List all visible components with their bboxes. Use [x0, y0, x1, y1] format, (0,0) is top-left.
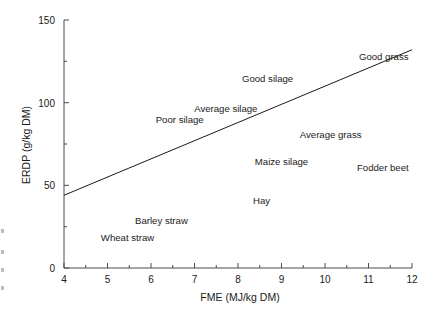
page-margin-artifact: [1, 268, 4, 272]
data-point-label: Barley straw: [135, 215, 188, 226]
x-axis-tick-label: 12: [406, 274, 417, 285]
data-point-label: Hay: [253, 195, 270, 206]
x-axis-tick-label: 4: [61, 274, 67, 285]
page-margin-artifact: [1, 229, 4, 233]
x-axis-title: FME (MJ/kg DM): [200, 291, 279, 303]
chart-series: [64, 50, 412, 195]
x-axis-tick-label: 7: [192, 274, 198, 285]
x-axis-tick-label: 6: [148, 274, 154, 285]
x-axis-ticks: [64, 263, 412, 268]
x-axis-tick-label: 10: [319, 274, 330, 285]
data-point-label: Wheat straw: [101, 231, 154, 242]
data-point-label: Good grass: [359, 51, 409, 62]
chart-figure: 456789101112 050100150 Good grassGood si…: [0, 0, 430, 313]
page-margin-artifact: [1, 286, 4, 290]
data-point-label: Maize silage: [255, 155, 308, 166]
x-axis-tick-label: 9: [279, 274, 285, 285]
data-point-label: Poor silage: [156, 114, 204, 125]
x-axis-tick-label: 8: [235, 274, 241, 285]
y-axis-title: ERDP (g/kg DM): [20, 106, 32, 184]
x-axis-tick-label: 11: [363, 274, 373, 285]
trend-line: [64, 50, 412, 195]
page-margin-artifact: [1, 250, 4, 254]
y-axis-ticks: [64, 20, 69, 268]
data-point-label: Fodder beet: [357, 162, 409, 173]
chart-canvas: [0, 0, 430, 313]
y-axis-tick-label: 0: [0, 263, 55, 274]
data-point-label: Average silage: [194, 102, 257, 113]
data-point-label: Good silage: [242, 72, 293, 83]
data-point-label: Average grass: [300, 129, 362, 140]
y-axis-tick-label: 150: [0, 15, 55, 26]
x-axis-tick-label: 5: [105, 274, 111, 285]
